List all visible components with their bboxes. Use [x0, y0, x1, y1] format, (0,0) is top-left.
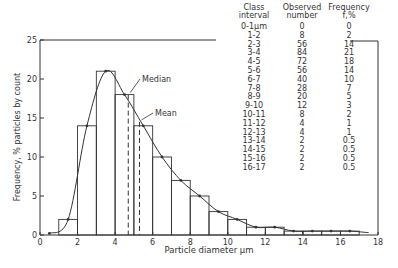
- histogram-bar: [153, 157, 172, 235]
- mean-pointer: [142, 113, 153, 120]
- histogram-bar: [96, 71, 115, 235]
- y-tick-label: 20: [27, 75, 37, 84]
- data-point-marker: [198, 195, 201, 198]
- header-text: interval: [232, 12, 276, 20]
- data-point-marker: [48, 232, 51, 235]
- data-point-marker: [104, 70, 107, 73]
- header-frequency: Frequency f,%: [320, 4, 378, 20]
- data-point-marker: [161, 156, 164, 159]
- y-tick-label: 15: [27, 114, 37, 123]
- x-tick-label: 6: [150, 238, 155, 247]
- data-point-marker: [348, 230, 351, 233]
- data-point-marker: [311, 230, 314, 233]
- mean-label: Mean: [155, 109, 177, 118]
- median-label: Median: [142, 75, 171, 84]
- histogram-bar: [134, 126, 153, 235]
- data-point-marker: [273, 226, 276, 229]
- x-tick-label: 12: [260, 238, 270, 247]
- data-point-marker: [123, 93, 126, 96]
- data-point-marker: [217, 210, 220, 213]
- data-point-marker: [330, 230, 333, 233]
- table-cell-interval: 16-17: [232, 164, 276, 173]
- y-tick-label: 5: [32, 192, 37, 201]
- header-text: f,%: [320, 12, 378, 20]
- data-point-marker: [142, 124, 145, 127]
- x-tick-label: 4: [113, 238, 118, 247]
- data-point-marker: [255, 226, 258, 229]
- x-tick-label: 2: [75, 238, 80, 247]
- data-point-marker: [236, 218, 239, 221]
- histogram-bar: [59, 219, 78, 235]
- histogram-bar: [78, 126, 97, 235]
- y-tick-label: 25: [27, 36, 37, 45]
- histogram-bar: [171, 180, 190, 235]
- data-point-marker: [67, 218, 70, 221]
- x-tick-label: 0: [37, 238, 42, 247]
- x-tick-label: 16: [335, 238, 345, 247]
- y-tick-label: 0: [32, 231, 37, 240]
- x-axis-label: Particle diameter μm: [164, 245, 253, 255]
- data-point-marker: [179, 179, 182, 182]
- histogram-bar: [228, 219, 247, 235]
- header-class-interval: Class interval: [232, 4, 276, 20]
- x-tick-label: 18: [373, 238, 383, 247]
- table-cell-freq: 0.5: [320, 164, 378, 173]
- data-point-marker: [292, 230, 295, 233]
- median-pointer: [130, 79, 140, 93]
- x-tick-label: 14: [298, 238, 308, 247]
- data-point-marker: [86, 124, 89, 127]
- histogram-bar: [115, 95, 134, 235]
- y-tick-label: 10: [27, 153, 37, 162]
- y-axis-label: Frequency, % particles by count: [13, 73, 22, 201]
